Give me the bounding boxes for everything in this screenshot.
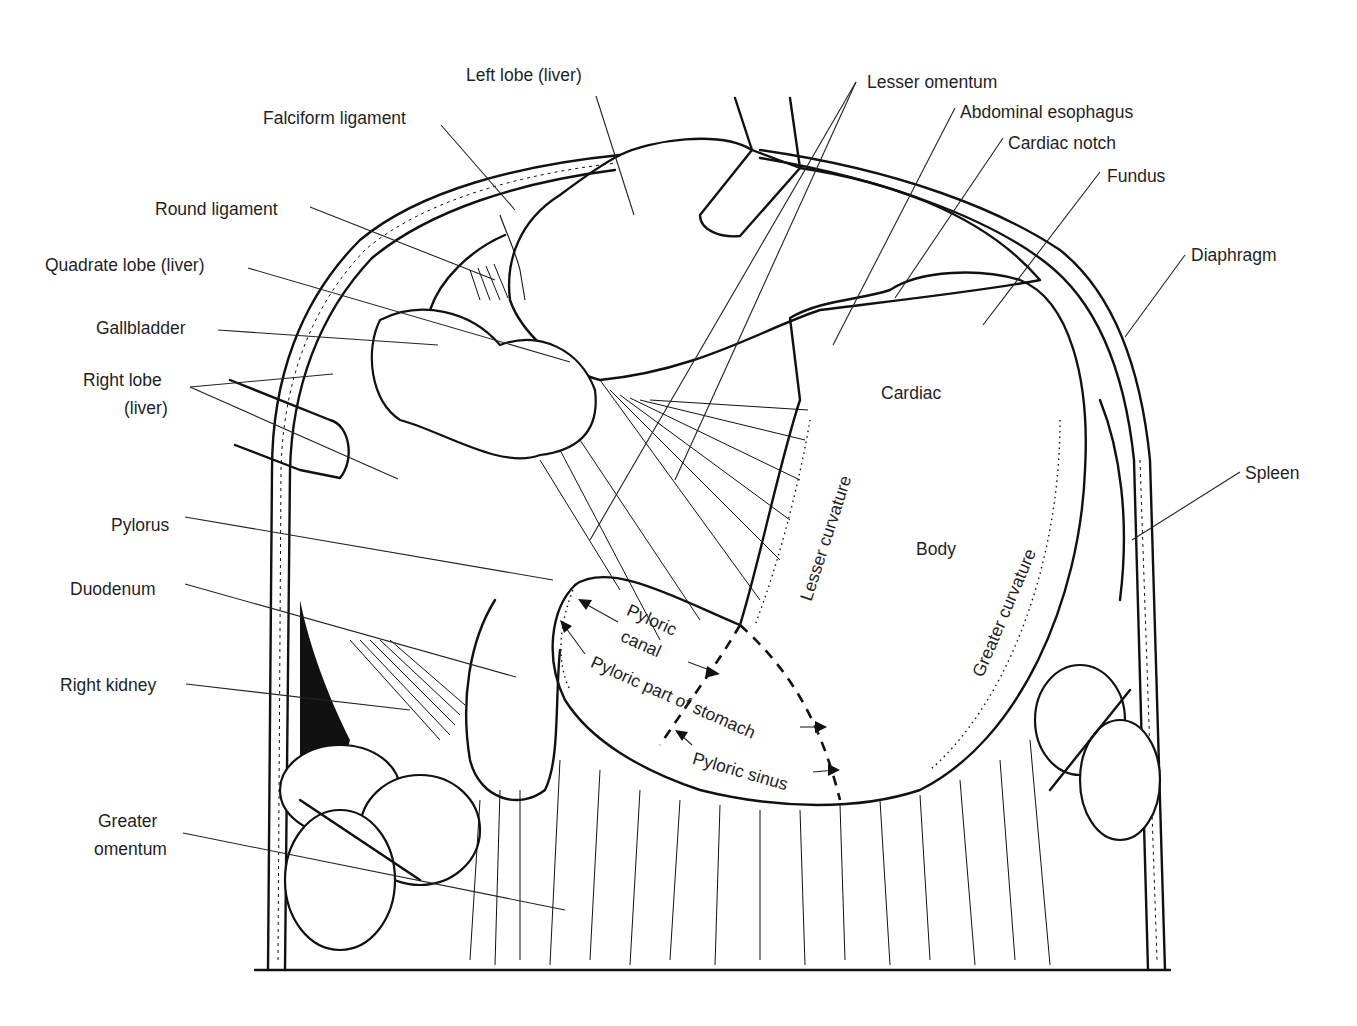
label-lesser-omentum: Lesser omentum: [867, 71, 997, 93]
label-fundus: Fundus: [1107, 165, 1165, 187]
label-body: Body: [916, 539, 956, 559]
label-abdominal-esophagus: Abdominal esophagus: [960, 101, 1133, 123]
label-round-ligament: Round ligament: [155, 198, 278, 220]
label-greater-omentum-2: omentum: [94, 838, 167, 860]
label-greater-omentum: Greater: [98, 810, 157, 832]
label-left-lobe: Left lobe (liver): [466, 64, 582, 86]
label-right-lobe-liver: (liver): [124, 397, 168, 419]
colon-loops: [280, 745, 480, 950]
label-right-kidney: Right kidney: [60, 674, 156, 696]
label-spleen: Spleen: [1245, 462, 1300, 484]
liver: [372, 139, 1040, 459]
label-gallbladder: Gallbladder: [96, 317, 186, 339]
anatomy-figure: Falciform ligament Round ligament Quadra…: [0, 0, 1357, 1026]
label-quadrate-lobe: Quadrate lobe (liver): [45, 254, 205, 276]
label-right-lobe: Right lobe: [83, 369, 162, 391]
label-falciform-ligament: Falciform ligament: [263, 107, 406, 129]
label-diaphragm: Diaphragm: [1191, 244, 1277, 266]
label-cardiac-notch: Cardiac notch: [1008, 132, 1116, 154]
spleen-region: [1035, 400, 1160, 840]
label-cardiac: Cardiac: [881, 383, 941, 403]
label-pylorus: Pylorus: [111, 514, 169, 536]
label-duodenum: Duodenum: [70, 578, 156, 600]
stomach-illustration: [0, 0, 1357, 1026]
